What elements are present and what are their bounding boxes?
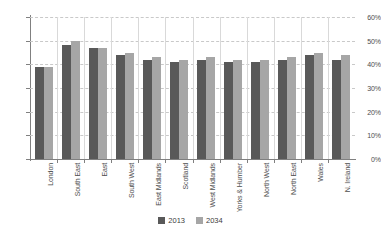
y-axis-tick-label: 30% xyxy=(355,85,381,92)
y-axis-tick-label: 50% xyxy=(355,37,381,44)
plot-area xyxy=(30,17,355,159)
bar-2034 xyxy=(341,55,350,159)
chart-legend: 20132034 xyxy=(0,216,381,225)
bar-2034 xyxy=(206,57,215,159)
bar-group xyxy=(247,17,274,159)
bar-2034 xyxy=(314,53,323,160)
legend-label: 2013 xyxy=(168,216,185,225)
bar-2013 xyxy=(197,60,206,159)
bar-2034 xyxy=(152,57,161,159)
bar-2034 xyxy=(233,60,242,159)
x-axis-tick-mark xyxy=(193,159,194,163)
bar-2034 xyxy=(98,48,107,159)
x-axis-tick-mark xyxy=(111,159,112,163)
y-axis-tick-mark xyxy=(26,159,30,160)
category-separator xyxy=(301,17,302,159)
x-axis-tick-mark xyxy=(165,159,166,163)
category-separator xyxy=(165,17,166,159)
x-axis-tick-mark xyxy=(247,159,248,163)
bar-group xyxy=(274,17,301,159)
x-axis-tick-mark xyxy=(328,159,329,163)
y-axis-tick-label: 10% xyxy=(355,132,381,139)
bar-group xyxy=(138,17,165,159)
bar-2013 xyxy=(332,60,341,159)
bar-2013 xyxy=(224,62,233,159)
bar-group xyxy=(220,17,247,159)
bar-2013 xyxy=(278,60,287,159)
bar-group xyxy=(57,17,84,159)
y-axis-tick-label: 0% xyxy=(355,156,381,163)
bar-group xyxy=(328,17,355,159)
bar-2013 xyxy=(251,62,260,159)
legend-item[interactable]: 2034 xyxy=(196,216,223,225)
bar-2013 xyxy=(89,48,98,159)
x-axis-tick-mark xyxy=(84,159,85,163)
bar-group xyxy=(84,17,111,159)
category-separator xyxy=(111,17,112,159)
category-separator xyxy=(220,17,221,159)
bar-2034 xyxy=(44,67,53,159)
bar-2013 xyxy=(35,67,44,159)
legend-swatch-icon xyxy=(196,217,203,224)
bar-2013 xyxy=(116,55,125,159)
bar-group xyxy=(301,17,328,159)
bar-2034 xyxy=(71,41,80,159)
bar-2013 xyxy=(62,45,71,159)
x-axis-tick-mark xyxy=(274,159,275,163)
category-separator xyxy=(247,17,248,159)
bar-2013 xyxy=(305,55,314,159)
category-separator xyxy=(328,17,329,159)
y-axis-tick-label: 20% xyxy=(355,108,381,115)
bar-chart: 0%10%20%30%40%50%60% LondonSouth EastEas… xyxy=(0,0,381,239)
bar-group xyxy=(193,17,220,159)
bar-group xyxy=(30,17,57,159)
bar-group xyxy=(165,17,192,159)
category-separator xyxy=(84,17,85,159)
legend-label: 2034 xyxy=(206,216,223,225)
y-axis-tick-label: 40% xyxy=(355,61,381,68)
bar-group xyxy=(111,17,138,159)
bar-2013 xyxy=(143,60,152,159)
category-separator xyxy=(274,17,275,159)
bar-2013 xyxy=(170,62,179,159)
bar-2034 xyxy=(179,60,188,159)
bar-2034 xyxy=(260,60,269,159)
bar-2034 xyxy=(287,57,296,159)
category-separator xyxy=(57,17,58,159)
x-axis-tick-mark xyxy=(57,159,58,163)
legend-item[interactable]: 2013 xyxy=(158,216,185,225)
category-separator xyxy=(138,17,139,159)
x-axis-tick-mark xyxy=(220,159,221,163)
legend-swatch-icon xyxy=(158,217,165,224)
category-separator xyxy=(193,17,194,159)
x-axis-tick-mark xyxy=(301,159,302,163)
x-axis-tick-mark xyxy=(138,159,139,163)
bar-2034 xyxy=(125,53,134,160)
y-axis-tick-label: 60% xyxy=(355,14,381,21)
